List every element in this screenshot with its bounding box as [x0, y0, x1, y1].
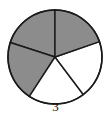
figure-caption-number: 3 [0, 100, 111, 114]
pie-figure: 3 [0, 0, 111, 118]
